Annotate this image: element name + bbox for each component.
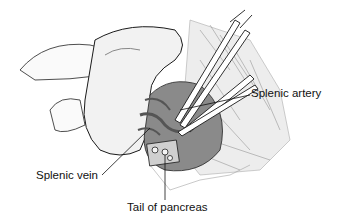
- illustration-drawing: [0, 0, 344, 222]
- label-splenic-vein: Splenic vein: [36, 170, 98, 182]
- label-splenic-artery: Splenic artery: [251, 88, 321, 100]
- pancreas-tail: [147, 140, 180, 166]
- anatomical-illustration: Splenic artery Splenic vein Tail of panc…: [0, 0, 344, 222]
- label-tail-of-pancreas: Tail of pancreas: [127, 202, 208, 214]
